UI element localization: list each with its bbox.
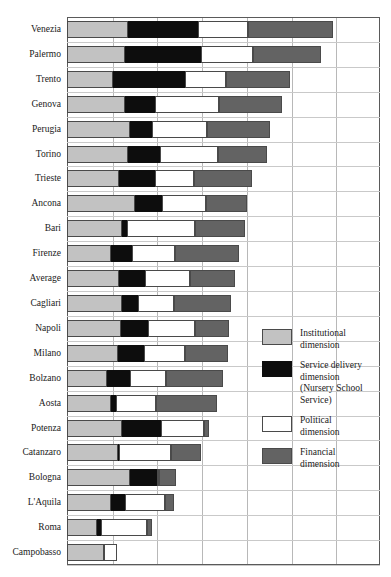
row-separator [67, 191, 380, 192]
bar-segment-pol[interactable] [119, 444, 171, 461]
legend-item-financial[interactable]: Financial dimension [262, 447, 380, 470]
bar-segment-pol[interactable] [104, 544, 117, 561]
bar-segment-inst[interactable] [67, 494, 111, 511]
bar-segment-pol[interactable] [148, 320, 195, 337]
bar-segment-fin[interactable] [194, 170, 253, 187]
row-separator [67, 92, 380, 93]
bar-segment-pol[interactable] [160, 146, 219, 163]
bar-segment-pol[interactable] [155, 170, 194, 187]
bar-segment-inst[interactable] [67, 345, 118, 362]
bar-segment-fin[interactable] [206, 195, 247, 212]
row-separator [67, 142, 380, 143]
bar-segment-fin[interactable] [204, 420, 209, 437]
bar-segment-svc[interactable] [128, 146, 160, 163]
row-separator [67, 266, 380, 267]
y-label-trento: Trento [36, 74, 61, 85]
legend-item-political[interactable]: Political dimension [262, 415, 380, 438]
bar-segment-pol[interactable] [138, 295, 175, 312]
bar-segment-pol[interactable] [198, 21, 248, 38]
bar-segment-fin[interactable] [159, 469, 176, 486]
bar-segment-svc[interactable] [113, 71, 185, 88]
bar-segment-inst[interactable] [67, 121, 130, 138]
bar-segment-svc[interactable] [128, 21, 199, 38]
legend-item-service-delivery[interactable]: Service delivery dimension (Nursery Scho… [262, 360, 380, 406]
bar-segment-pol[interactable] [201, 46, 253, 63]
bar-segment-pol[interactable] [161, 420, 204, 437]
bar-segment-fin[interactable] [166, 370, 223, 387]
bar-segment-inst[interactable] [67, 544, 104, 561]
bar-segment-inst[interactable] [67, 46, 125, 63]
bar-segment-inst[interactable] [67, 270, 119, 287]
bar-segment-pol[interactable] [145, 270, 190, 287]
row-separator [67, 565, 380, 566]
y-label-cagliari: Cagliari [30, 298, 61, 309]
bar-segment-pol[interactable] [152, 121, 207, 138]
bar-segment-svc[interactable] [107, 370, 130, 387]
y-label-trieste: Trieste [35, 173, 61, 184]
bar-segment-fin[interactable] [185, 345, 228, 362]
bar-segment-fin[interactable] [207, 121, 270, 138]
bar-segment-fin[interactable] [190, 270, 236, 287]
bar-segment-fin[interactable] [171, 444, 201, 461]
bar-segment-fin[interactable] [219, 96, 282, 113]
bar-segment-inst[interactable] [67, 220, 122, 237]
bar-segment-svc[interactable] [135, 195, 162, 212]
bar-segment-inst[interactable] [67, 21, 128, 38]
bar-segment-svc[interactable] [119, 170, 155, 187]
bar-segment-svc[interactable] [122, 420, 162, 437]
row-separator [67, 117, 380, 118]
bar-segment-inst[interactable] [67, 519, 97, 536]
bar-segment-fin[interactable] [195, 320, 229, 337]
bar-segment-pol[interactable] [155, 96, 219, 113]
bar-segment-inst[interactable] [67, 444, 118, 461]
bar-segment-svc[interactable] [121, 320, 149, 337]
bar-segment-pol[interactable] [125, 494, 166, 511]
bar-segment-svc[interactable] [118, 345, 145, 362]
bar-segment-pol[interactable] [101, 519, 148, 536]
legend-swatch-financial [262, 448, 292, 464]
bar-segment-fin[interactable] [174, 295, 231, 312]
bar-segment-inst[interactable] [67, 420, 122, 437]
bar-segment-svc[interactable] [122, 295, 138, 312]
bar-segment-svc[interactable] [125, 96, 155, 113]
bar-segment-inst[interactable] [67, 320, 121, 337]
bar-segment-fin[interactable] [147, 519, 152, 536]
bar-segment-inst[interactable] [67, 195, 135, 212]
bar-segment-fin[interactable] [248, 21, 333, 38]
bar-segment-inst[interactable] [67, 71, 113, 88]
bar-segment-inst[interactable] [67, 370, 107, 387]
bar-segment-pol[interactable] [127, 220, 195, 237]
bar-segment-fin[interactable] [253, 46, 321, 63]
bar-segment-fin[interactable] [175, 245, 239, 262]
bar-segment-pol[interactable] [132, 245, 175, 262]
bar-segment-inst[interactable] [67, 96, 125, 113]
bar-segment-fin[interactable] [218, 146, 267, 163]
bar-segment-inst[interactable] [67, 245, 111, 262]
bar-segment-inst[interactable] [67, 295, 122, 312]
y-label-bari: Bari [45, 223, 61, 234]
bar-segment-fin[interactable] [195, 220, 246, 237]
bar-segment-svc[interactable] [130, 121, 152, 138]
y-label-l-aquila: L'Aquila [28, 497, 61, 508]
bar-segment-svc[interactable] [125, 46, 201, 63]
bar-segment-inst[interactable] [67, 395, 111, 412]
bar-segment-pol[interactable] [162, 195, 206, 212]
bar-segment-fin[interactable] [156, 395, 218, 412]
bar-segment-svc[interactable] [111, 494, 125, 511]
bar-segment-svc[interactable] [130, 469, 158, 486]
legend-item-institutional[interactable]: Institutional dimension [262, 328, 380, 351]
bar-segment-svc[interactable] [111, 245, 132, 262]
bar-segment-inst[interactable] [67, 469, 130, 486]
bar-segment-fin[interactable] [165, 494, 174, 511]
bar-segment-pol[interactable] [144, 345, 185, 362]
bar-segment-pol[interactable] [116, 395, 156, 412]
bar-segment-svc[interactable] [119, 270, 145, 287]
bar-segment-inst[interactable] [67, 170, 119, 187]
bar-segment-pol[interactable] [185, 71, 226, 88]
y-label-average: Average [30, 273, 61, 284]
bar-segment-inst[interactable] [67, 146, 128, 163]
row-separator [67, 241, 380, 242]
bar-segment-pol[interactable] [130, 370, 167, 387]
legend-swatch-service-delivery [262, 361, 292, 377]
bar-segment-fin[interactable] [226, 71, 290, 88]
